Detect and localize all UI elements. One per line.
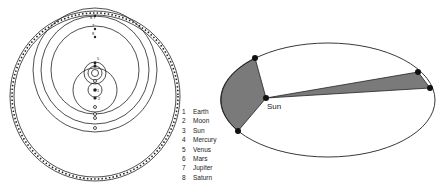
diagrams-canvas: 1 2 5 7 8 8 7 bbox=[0, 0, 446, 191]
kepler-diagram bbox=[221, 43, 435, 157]
legend-item: 2Moon bbox=[182, 116, 216, 125]
legend-item: 8Saturn bbox=[182, 173, 216, 182]
svg-text:7: 7 bbox=[92, 23, 95, 28]
svg-text:2: 2 bbox=[98, 96, 101, 101]
legend-item: 7Jupiter bbox=[182, 163, 216, 172]
svg-text:1: 1 bbox=[97, 88, 100, 93]
svg-text:8 7: 8 7 bbox=[90, 15, 96, 20]
legend-item: 6Mars bbox=[182, 154, 216, 163]
planet-legend: 1Earth 2Moon 3Sun 4Mercury 5Venus 6Mars … bbox=[182, 107, 216, 182]
svg-text:8: 8 bbox=[92, 31, 95, 36]
sun-label: Sun bbox=[267, 102, 281, 111]
svg-text:5: 5 bbox=[97, 56, 100, 61]
legend-item: 4Mercury bbox=[182, 135, 216, 144]
legend-item: 3Sun bbox=[182, 126, 216, 135]
legend-item: 1Earth bbox=[182, 107, 216, 116]
legend-item: 5Venus bbox=[182, 145, 216, 154]
planet-numbers: 1 2 5 7 8 8 7 bbox=[90, 15, 101, 101]
geocentric-diagram bbox=[10, 8, 180, 181]
